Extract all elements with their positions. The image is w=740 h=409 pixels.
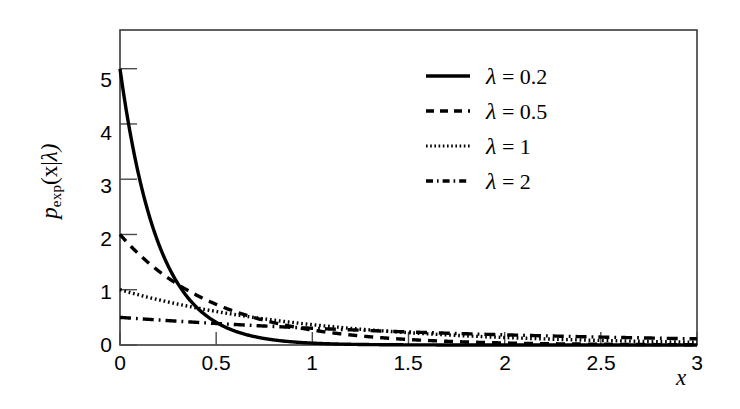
- legend-label-lambda-1: λ = 1: [480, 134, 531, 158]
- y-axis-label: pexp(x|λ): [38, 81, 64, 281]
- legend-line-sample-solid: [424, 66, 480, 86]
- legend-lambda-symbol: λ: [486, 133, 496, 159]
- x-tick-label-1: 1: [282, 352, 342, 373]
- legend-label-lambda-2: λ = 2: [480, 169, 531, 193]
- legend-value-text: = 0.2: [496, 64, 547, 89]
- y-tick-label-4: 4: [78, 122, 112, 143]
- legend-line-sample-dashdot: [424, 171, 480, 191]
- x-axis-label: x: [676, 366, 686, 389]
- legend: λ = 0.2 λ = 0.5 λ = 1 λ = 2: [424, 58, 614, 198]
- y-tick-label-3: 3: [78, 175, 112, 196]
- legend-label-lambda-0-2: λ = 0.2: [480, 64, 547, 88]
- x-tick-label-0: 0: [90, 352, 150, 373]
- x-tick-label-1-5: 1.5: [378, 352, 438, 373]
- legend-lambda-symbol: λ: [486, 63, 496, 89]
- legend-item-lambda-0-2: λ = 0.2: [424, 58, 614, 93]
- legend-item-lambda-2: λ = 2: [424, 163, 614, 198]
- y-axis-label-arg: (x|: [37, 161, 62, 185]
- legend-item-lambda-1: λ = 1: [424, 128, 614, 163]
- legend-line-sample-dotted: [424, 136, 480, 156]
- legend-lambda-symbol: λ: [486, 168, 496, 194]
- y-tick-label-5: 5: [78, 69, 112, 90]
- exponential-pdf-figure: 5 4 3 2 1 0 0 0.5 1 1.5 2 2.5 3 pexp(x|λ…: [0, 0, 740, 409]
- y-tick-label-1: 1: [78, 281, 112, 302]
- legend-item-lambda-0-5: λ = 0.5: [424, 93, 614, 128]
- legend-line-sample-dashed: [424, 101, 480, 121]
- y-axis-label-base: p: [37, 207, 62, 219]
- legend-value-text: = 1: [496, 134, 530, 159]
- y-axis-label-subscript: exp: [48, 185, 64, 207]
- y-axis-label-cond: λ): [37, 144, 62, 162]
- legend-value-text: = 2: [496, 169, 530, 194]
- x-tick-label-2: 2: [475, 352, 535, 373]
- legend-lambda-symbol: λ: [486, 98, 496, 124]
- legend-label-lambda-0-5: λ = 0.5: [480, 99, 547, 123]
- legend-value-text: = 0.5: [496, 99, 547, 124]
- x-tick-label-0-5: 0.5: [186, 352, 246, 373]
- y-tick-label-2: 2: [78, 228, 112, 249]
- x-tick-label-2-5: 2.5: [571, 352, 631, 373]
